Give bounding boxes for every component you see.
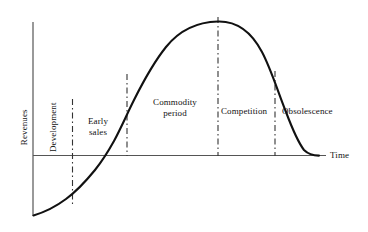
phase-label-early-sales-line2: sales (78, 127, 118, 138)
revenue-curve (34, 21, 320, 215)
phase-label-commodity-line2: period (141, 108, 209, 119)
phase-label-early-sales: Early sales (78, 116, 118, 137)
x-axis-label: Time (330, 150, 349, 161)
phase-label-early-sales-line1: Early (78, 116, 118, 127)
phase-label-obsolescence: Obsolescence (282, 106, 333, 117)
phase-label-competition: Competition (221, 106, 267, 117)
phase-label-development: Development (48, 91, 59, 163)
product-life-cycle-figure: Revenues Development Early sales Commodi… (0, 0, 368, 232)
phase-label-commodity-period: Commodity period (141, 97, 209, 118)
phase-label-commodity-line1: Commodity (141, 97, 209, 108)
y-axis-label: Revenues (19, 92, 30, 162)
